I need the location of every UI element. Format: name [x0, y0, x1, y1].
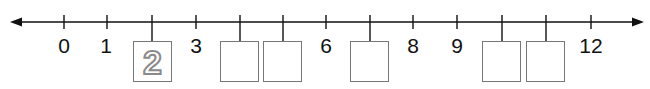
answer-box-7[interactable]: [350, 41, 389, 82]
answer-box-10[interactable]: [482, 41, 521, 82]
tick-label-12: 12: [579, 35, 602, 56]
tick-label-9: 9: [451, 35, 463, 56]
tracing-hint-2: 2: [134, 45, 171, 79]
answer-box-5[interactable]: [263, 41, 302, 82]
answer-box-11[interactable]: [526, 41, 565, 82]
tick-label-1: 1: [100, 35, 112, 56]
answer-box-4[interactable]: [220, 41, 259, 82]
tick-label-0: 0: [58, 35, 70, 56]
tick-label-8: 8: [407, 35, 419, 56]
number-line-diagram: 0 1 3 6 8 9 12 2: [0, 0, 650, 89]
tick-label-3: 3: [190, 35, 202, 56]
left-arrow-icon: [10, 18, 22, 27]
answer-box-2[interactable]: 2: [133, 41, 172, 82]
tick-label-6: 6: [320, 35, 332, 56]
right-arrow-icon: [632, 18, 644, 27]
